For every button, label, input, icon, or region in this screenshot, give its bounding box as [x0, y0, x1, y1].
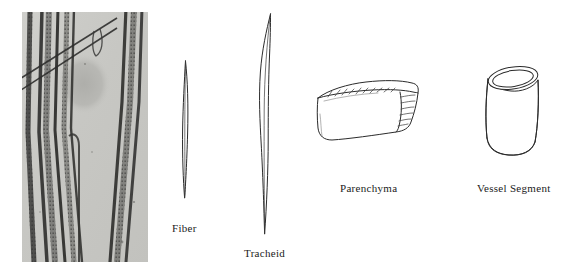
fiber-drawing — [176, 58, 200, 203]
label-parenchyma: Parenchyma — [340, 182, 397, 194]
parenchyma-body — [317, 81, 418, 140]
vessel-body — [486, 79, 538, 155]
micrograph-canvas — [22, 12, 148, 262]
label-fiber: Fiber — [172, 222, 197, 234]
label-tracheid: Tracheid — [244, 247, 285, 259]
parenchyma-drawing — [314, 70, 424, 150]
tracheid-outline — [260, 14, 271, 234]
micrograph-field — [22, 12, 148, 262]
wood-fiber-photomicrograph — [22, 12, 148, 262]
figure-plate: Fiber Tracheid Parenchyma Vessel Segment — [0, 0, 568, 268]
tracheid-drawing — [252, 10, 282, 240]
label-vessel-segment: Vessel Segment — [477, 182, 551, 194]
vessel-segment-drawing — [481, 60, 547, 165]
